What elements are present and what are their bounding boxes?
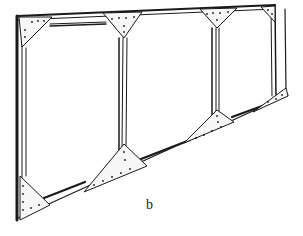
- gusset-bottom-mid2: [184, 110, 234, 143]
- stud-2: [212, 28, 219, 117]
- gusset-top-mid2: [200, 8, 237, 28]
- gusset-top-mid1: [103, 12, 142, 38]
- rivets: [22, 9, 283, 211]
- stud-1: [119, 38, 127, 150]
- bottom-rail: [18, 95, 288, 218]
- gusset-top-left: [19, 17, 52, 47]
- gusset-bottom-right: [253, 88, 288, 112]
- figure-caption: b: [146, 197, 153, 213]
